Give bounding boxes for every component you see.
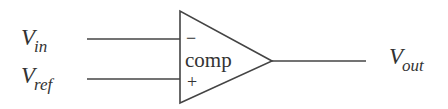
vin-subscript: in	[34, 37, 47, 56]
comparator-diagram: − comp + Vin Vref Vout	[0, 0, 448, 109]
vref-label: Vref	[21, 63, 55, 94]
noninverting-sign: +	[187, 72, 197, 92]
inverting-sign: −	[186, 28, 196, 48]
vout-label: Vout	[389, 44, 425, 75]
vin-label: Vin	[21, 25, 47, 56]
vref-subscript: ref	[34, 75, 55, 94]
vout-subscript: out	[402, 56, 425, 75]
comp-label: comp	[185, 48, 232, 72]
